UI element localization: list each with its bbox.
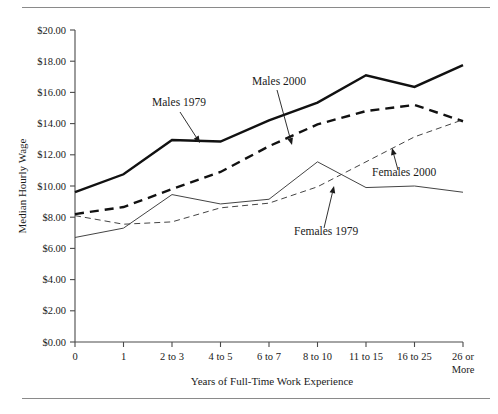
- y-axis-ticks: [70, 30, 75, 342]
- y-tick-label: $6.00: [42, 243, 66, 254]
- x-tick-label: 0: [72, 351, 77, 362]
- y-tick-label: $8.00: [42, 212, 66, 223]
- x-axis-ticks: [75, 342, 463, 347]
- x-tick-label: 1: [121, 351, 126, 362]
- annotation-label-males-2000: Males 2000: [252, 75, 306, 87]
- x-tick-label: 16 to 25: [397, 351, 431, 362]
- x-tick-label: 6 to 7: [257, 351, 281, 362]
- y-axis-tick-labels: $0.00$2.00$4.00$6.00$8.00$10.00$12.00$14…: [37, 25, 66, 348]
- y-tick-label: $18.00: [37, 56, 66, 67]
- annotation-label-males-1979: Males 1979: [152, 96, 206, 108]
- y-axis: $0.00$2.00$4.00$6.00$8.00$10.00$12.00$14…: [37, 25, 75, 348]
- y-tick-label: $2.00: [42, 305, 66, 316]
- line-chart: $0.00$2.00$4.00$6.00$8.00$10.00$12.00$14…: [0, 0, 498, 414]
- y-axis-title: Median Hourly Wage: [16, 138, 28, 233]
- y-tick-label: $12.00: [37, 149, 66, 160]
- y-tick-label: $20.00: [37, 25, 66, 36]
- x-tick-label: 2 to 3: [160, 351, 184, 362]
- annotation-leader: [180, 112, 196, 137]
- annotation-arrowhead: [330, 186, 336, 193]
- x-axis-title: Years of Full-Time Work Experience: [191, 375, 353, 387]
- annotation-arrowhead: [391, 148, 397, 156]
- x-axis: 012 to 34 to 56 to 78 to 1011 to 1516 to…: [72, 342, 474, 375]
- x-tick-label: 8 to 10: [303, 351, 332, 362]
- figure-container: $0.00$2.00$4.00$6.00$8.00$10.00$12.00$14…: [0, 0, 498, 414]
- x-tick-label: 4 to 5: [209, 351, 233, 362]
- y-tick-label: $16.00: [37, 87, 66, 98]
- annotation-label-females-2000: Females 2000: [372, 166, 436, 178]
- x-axis-tick-labels: 012 to 34 to 56 to 78 to 1011 to 1516 to…: [72, 351, 474, 375]
- series-lines: [75, 65, 463, 237]
- annotation-leader: [324, 193, 332, 228]
- x-tick-label: 26 orMore: [452, 351, 475, 375]
- series-annotations: Males 1979Males 2000Females 2000Females …: [152, 75, 436, 237]
- y-tick-label: $10.00: [37, 181, 66, 192]
- y-tick-label: $14.00: [37, 118, 66, 129]
- x-tick-label: 11 to 15: [349, 351, 383, 362]
- y-tick-label: $0.00: [42, 337, 66, 348]
- annotation-label-females-1979: Females 1979: [294, 225, 358, 237]
- y-tick-label: $4.00: [42, 274, 66, 285]
